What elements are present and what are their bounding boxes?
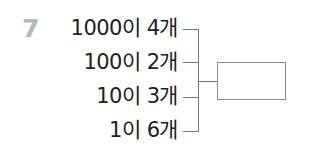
row-thousands: 1000이 4개 [71,14,178,42]
connector-tick-2 [183,62,199,63]
row-ones: 1이 6개 [109,116,178,144]
answer-box[interactable] [217,62,286,100]
connector-stub [198,81,217,82]
row-tens: 10이 3개 [96,82,178,110]
problem-number: 7 [22,14,39,44]
row-hundreds: 100이 2개 [83,48,178,76]
connector-tick-4 [183,131,199,132]
connector-tick-3 [183,97,199,98]
connector-tick-1 [183,29,199,30]
